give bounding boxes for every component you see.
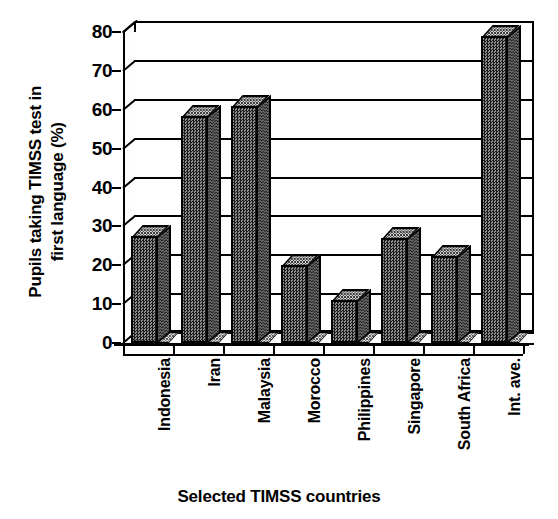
- bar-indonesia[interactable]: [131, 236, 158, 343]
- y-tick-label: 20: [92, 254, 112, 276]
- bar-side-face: [208, 105, 221, 343]
- x-tick-label: Philippines: [356, 358, 374, 441]
- bar-slot: [381, 32, 408, 343]
- bar-front-face: [181, 116, 208, 343]
- x-tick-label: Indonesia: [156, 358, 174, 431]
- x-tick-label: Malaysia: [256, 358, 274, 423]
- x-tick-label: Morocco: [306, 358, 324, 423]
- plot-area: [123, 32, 523, 343]
- bar-slot: [431, 32, 458, 343]
- bar-slot: [131, 32, 158, 343]
- x-tick-mark: [173, 343, 175, 354]
- y-tick-label: 40: [92, 177, 112, 199]
- y-tick-mark: [112, 31, 121, 33]
- y-tick-mark: [112, 109, 121, 111]
- x-tick-mark: [223, 343, 225, 354]
- x-tick-mark: [473, 343, 475, 354]
- x-tick-label: Iran: [206, 358, 224, 387]
- x-tick-mark: [323, 343, 325, 354]
- y-tick-label: 80: [92, 21, 112, 43]
- y-tick-mark: [112, 303, 121, 305]
- y-tick-label: 70: [92, 60, 112, 82]
- bar-side-face: [458, 245, 471, 343]
- x-tick-label: Int. ave.: [506, 358, 524, 416]
- bar-side-face: [308, 254, 321, 343]
- bar-front-face: [431, 256, 458, 343]
- bar-series: [123, 32, 523, 343]
- bar-south-africa[interactable]: [431, 256, 458, 343]
- x-axis-line: [114, 343, 529, 346]
- y-tick-mark: [112, 148, 121, 150]
- x-tick-mark: [373, 343, 375, 354]
- x-tick-mark: [273, 343, 275, 354]
- y-axis-tick-labels: 01020304050607080: [74, 0, 116, 360]
- x-tick-label: Singapore: [406, 358, 424, 434]
- bar-front-face: [281, 265, 308, 343]
- y-tick-mark: [112, 264, 121, 266]
- bar-morocco[interactable]: [281, 265, 308, 343]
- y-axis-title: Pupils taking TIMSS test in first langua…: [25, 27, 69, 357]
- bar-side-face: [508, 25, 521, 343]
- bar-front-face: [231, 106, 258, 343]
- y-axis-title-line-1: Pupils taking TIMSS test in: [25, 27, 47, 357]
- y-tick-mark: [112, 70, 121, 72]
- floor-front-edge: [123, 354, 523, 356]
- x-axis-title: Selected TIMSS countries: [0, 487, 558, 507]
- bar-front-face: [131, 236, 158, 343]
- x-tick-mark: [423, 343, 425, 354]
- bar-side-face: [258, 95, 271, 343]
- bar-malaysia[interactable]: [231, 106, 258, 343]
- y-axis-title-line-2: first language (%): [47, 27, 69, 357]
- x-tick-mark: [123, 343, 125, 354]
- bar-iran[interactable]: [181, 116, 208, 343]
- bar-slot: [281, 32, 308, 343]
- y-tick-mark: [112, 225, 121, 227]
- bar-slot: [231, 32, 258, 343]
- bar-slot: [181, 32, 208, 343]
- bar-chart: Pupils taking TIMSS test in first langua…: [0, 0, 558, 519]
- bar-int-ave[interactable]: [481, 36, 508, 343]
- y-tick-label: 0: [102, 332, 112, 354]
- bar-philippines[interactable]: [331, 300, 358, 343]
- bar-front-face: [331, 300, 358, 343]
- y-tick-label: 50: [92, 138, 112, 160]
- x-tick-label: South Africa: [456, 358, 474, 450]
- bar-slot: [481, 32, 508, 343]
- bar-singapore[interactable]: [381, 238, 408, 343]
- bar-side-face: [158, 225, 171, 343]
- y-tick-mark: [112, 187, 121, 189]
- bar-side-face: [408, 227, 421, 343]
- x-tick-mark: [523, 343, 525, 354]
- bar-front-face: [481, 36, 508, 343]
- y-tick-label: 10: [92, 293, 112, 315]
- y-tick-label: 60: [92, 99, 112, 121]
- y-tick-label: 30: [92, 215, 112, 237]
- bar-front-face: [381, 238, 408, 343]
- bar-slot: [331, 32, 358, 343]
- gridline: [134, 21, 534, 23]
